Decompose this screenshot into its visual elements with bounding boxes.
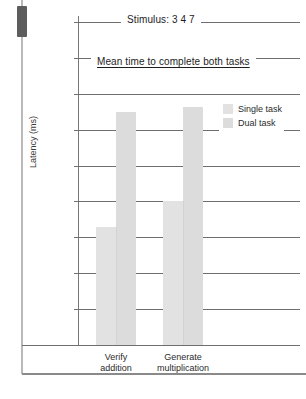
legend-item-dual-task[interactable]: Dual task [223,116,282,130]
y-axis-tick [74,130,78,131]
y-axis-tick [74,94,78,95]
chart-legend: Single task Dual task [219,100,284,132]
y-axis-tick [74,237,78,238]
x-axis-line [22,345,300,346]
gridline [78,94,300,95]
chart-title: Stimulus: 3 4 7 [121,14,201,25]
x-axis-category-label: Generatemultiplication [143,352,223,374]
vertical-scrollbar-thumb[interactable] [17,6,27,37]
legend-label-single-task: Single task [238,104,282,114]
vertical-scrollbar-track[interactable] [21,0,23,374]
plot-area: 2250200017501500125010007505002500 Stimu… [78,16,300,351]
y-axis-spine [78,16,79,345]
x-axis-category-line: Generate [143,352,223,363]
legend-item-single-task[interactable]: Single task [223,102,282,116]
bar-seam [116,227,117,345]
y-axis-tick [74,22,78,23]
legend-swatch-dual-task [223,118,233,128]
bar [183,107,203,345]
x-axis-category-line: multiplication [143,363,223,374]
y-axis-tick [74,201,78,202]
bar [116,112,136,345]
y-axis-tick [74,309,78,310]
y-axis-title: Latency (ms) [28,116,38,168]
bar [96,227,116,345]
legend-swatch-single-task [223,104,233,114]
y-axis-tick [74,166,78,167]
bar-seam [183,201,184,345]
y-axis-tick [74,273,78,274]
y-axis-tick [74,58,78,59]
legend-label-dual-task: Dual task [238,118,276,128]
chart-figure: 2250200017501500125010007505002500 Stimu… [0,0,306,399]
y-axis-tick [74,345,78,346]
chart-subtitle: Mean time to complete both tasks [91,56,256,67]
bar [163,201,183,345]
